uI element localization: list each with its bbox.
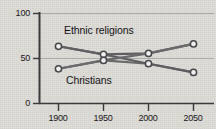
marker-ethnic-2050 <box>190 69 196 75</box>
x-tick-label-2050: 2050 <box>173 113 213 123</box>
chart-plot-area <box>0 0 216 129</box>
marker-christians-1900 <box>55 66 61 72</box>
marker-christians-1950 <box>100 57 106 63</box>
x-tick-label-1950: 1950 <box>83 113 123 123</box>
x-tick-label-1900: 1900 <box>38 113 78 123</box>
marker-christians-2050 <box>190 41 196 47</box>
line-chart-figure: 100 50 0 1900 1950 2000 2050 Ethnic reli… <box>0 0 216 129</box>
series-christians <box>59 60 194 72</box>
marker-ethnic-1900 <box>55 43 61 49</box>
y-tick-label-0: 0 <box>0 98 30 108</box>
series-line-christians <box>59 60 194 72</box>
y-tick-label-100: 100 <box>0 8 30 18</box>
series-annotation-ethnic-religions: Ethnic religions <box>64 24 134 36</box>
series-annotation-christians: Christians <box>66 74 112 86</box>
marker-ethnic-2000 <box>145 61 151 67</box>
y-tick-label-50: 50 <box>0 53 30 63</box>
x-tick-label-2000: 2000 <box>128 113 168 123</box>
marker-christians-2000 <box>145 50 151 56</box>
line-ethnic-declining <box>59 46 194 72</box>
line-christians-rising <box>59 44 194 69</box>
